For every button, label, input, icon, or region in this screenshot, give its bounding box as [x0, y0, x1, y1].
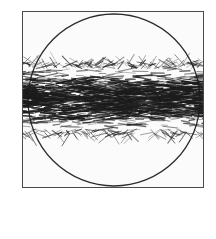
yarn-fiber-band	[23, 52, 203, 146]
figure-caption: spun staple yarn	[21, 194, 211, 239]
figure-frame	[22, 11, 204, 188]
figure-root: spun staple yarn	[0, 0, 216, 239]
spun-staple-yarn-illustration	[23, 12, 203, 187]
caption-line-1: spun staple	[21, 238, 211, 239]
